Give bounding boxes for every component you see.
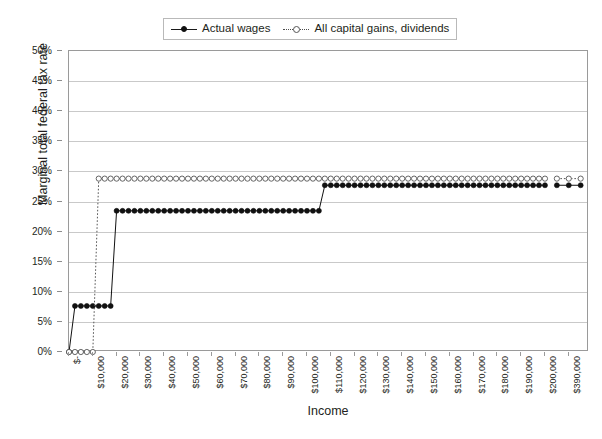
data-point: [465, 183, 470, 188]
data-point: [411, 176, 416, 181]
x-axis-tick-mark: [544, 352, 545, 356]
legend-marker-solid-filled-circle-icon: [171, 24, 197, 34]
data-point: [542, 183, 547, 188]
data-point: [322, 176, 327, 181]
data-point: [90, 303, 95, 308]
x-axis-tick-label: $130,000: [381, 356, 391, 394]
data-point: [566, 183, 571, 188]
data-point: [435, 176, 440, 181]
data-point: [441, 183, 446, 188]
data-point: [310, 208, 315, 213]
data-point: [197, 176, 202, 181]
legend-entry-actual-wages: Actual wages: [171, 23, 270, 35]
y-axis-tick-label: 15%: [32, 255, 52, 266]
data-point: [120, 176, 125, 181]
data-point: [376, 176, 381, 181]
y-axis-tick-mark: [57, 170, 62, 171]
x-axis-tick-label: $50,000: [191, 356, 201, 389]
x-axis-tick-mark: [163, 352, 164, 356]
y-axis-tick-mark: [57, 80, 62, 81]
data-point: [501, 183, 506, 188]
x-axis-title: Income: [68, 404, 588, 418]
data-point: [447, 176, 452, 181]
x-axis-tick-mark: [520, 352, 521, 356]
x-axis-tick-label: $200,000: [548, 356, 558, 394]
data-point: [453, 183, 458, 188]
data-point: [185, 208, 190, 213]
data-point: [447, 183, 452, 188]
x-axis-tick-mark: [68, 352, 69, 356]
data-point: [281, 208, 286, 213]
x-axis-tick-label: $90,000: [286, 356, 296, 389]
data-point: [566, 176, 571, 181]
data-point: [483, 183, 488, 188]
data-point: [108, 176, 113, 181]
x-axis-tick-mark: [282, 352, 283, 356]
legend-entry-capital-gains: All capital gains, dividends: [283, 23, 449, 35]
data-point: [150, 176, 155, 181]
data-point: [233, 176, 238, 181]
series-capital-gains: [66, 176, 583, 355]
x-axis-tick-label: $30,000: [143, 356, 153, 389]
data-point: [84, 303, 89, 308]
x-axis-tick-mark: [306, 352, 307, 356]
data-point: [435, 183, 440, 188]
data-point: [429, 176, 434, 181]
data-point: [417, 176, 422, 181]
x-axis-tick-mark: [187, 352, 188, 356]
data-point: [281, 176, 286, 181]
data-point: [251, 208, 256, 213]
data-point: [465, 176, 470, 181]
data-point: [257, 208, 262, 213]
data-point: [102, 176, 107, 181]
data-point: [578, 183, 583, 188]
data-point: [221, 176, 226, 181]
data-point: [513, 183, 518, 188]
data-point: [471, 183, 476, 188]
data-point: [489, 176, 494, 181]
data-point: [209, 176, 214, 181]
data-point: [328, 183, 333, 188]
data-point: [477, 183, 482, 188]
data-point: [412, 183, 417, 188]
data-point: [537, 183, 542, 188]
data-point: [126, 208, 131, 213]
data-point: [132, 208, 137, 213]
data-point: [352, 176, 357, 181]
data-point: [287, 208, 292, 213]
data-point: [144, 208, 149, 213]
x-axis-tick-label: $160,000: [453, 356, 463, 394]
data-point: [168, 176, 173, 181]
data-point: [316, 176, 321, 181]
data-point: [191, 208, 196, 213]
x-axis-tick-mark: [377, 352, 378, 356]
data-point: [227, 208, 232, 213]
data-point: [459, 183, 464, 188]
x-axis-tick-label: $70,000: [239, 356, 249, 389]
data-point: [209, 208, 214, 213]
data-point: [376, 183, 381, 188]
chart-legend: Actual wages All capital gains, dividend…: [163, 18, 457, 40]
data-point: [340, 176, 345, 181]
x-axis-tick-label: $180,000: [500, 356, 510, 394]
data-point: [292, 176, 297, 181]
data-point: [471, 176, 476, 181]
x-axis-tick-mark: [211, 352, 212, 356]
data-point: [191, 176, 196, 181]
chart-figure: Actual wages All capital gains, dividend…: [0, 0, 602, 439]
x-axis-tick-label: $40,000: [167, 356, 177, 389]
data-point: [215, 208, 220, 213]
data-point: [293, 208, 298, 213]
data-point: [388, 183, 393, 188]
data-point: [525, 176, 530, 181]
data-point: [245, 176, 250, 181]
data-point: [263, 176, 268, 181]
x-axis-tick-mark: [473, 352, 474, 356]
x-axis-tick-mark: [330, 352, 331, 356]
data-point: [530, 176, 535, 181]
data-point: [364, 183, 369, 188]
data-point: [102, 303, 107, 308]
y-axis-tick-label: 0%: [38, 346, 52, 357]
data-point: [525, 183, 530, 188]
data-point: [507, 183, 512, 188]
